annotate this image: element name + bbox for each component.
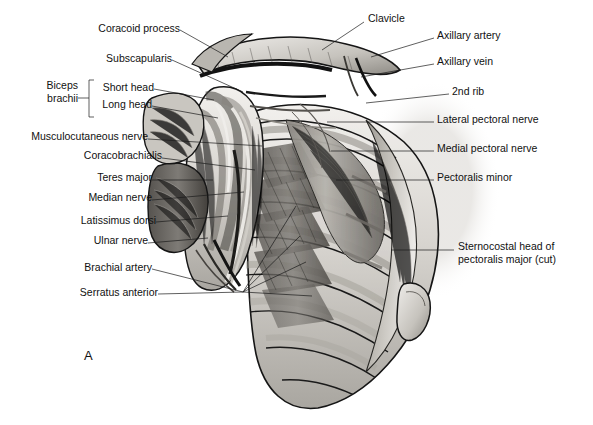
label-sternocostal-head: Sternocostal head of pectoralis major (c… <box>458 240 556 265</box>
leader-axillary-artery <box>371 38 434 57</box>
panel-letter-a: A <box>84 348 93 363</box>
label-brachial-artery: Brachial artery <box>0 261 152 274</box>
label-axillary-artery: Axillary artery <box>437 29 501 42</box>
label-ulnar-nerve: Ulnar nerve <box>0 234 148 247</box>
label-coracoid-process: Coracoid process <box>0 22 180 35</box>
label-short-head: Short head <box>0 81 154 94</box>
label-pectoralis-minor: Pectoralis minor <box>437 171 512 184</box>
label-coracobrachialis: Coracobrachialis <box>0 149 162 162</box>
label-long-head: Long head <box>0 98 152 111</box>
leader-serratus-anterior <box>158 292 243 294</box>
label-medial-pectoral-nerve: Medial pectoral nerve <box>437 142 537 155</box>
clavicle-group <box>192 34 400 76</box>
label-latissimus-dorsi: Latissimus dorsi <box>0 214 156 227</box>
label-subscapularis: Subscapularis <box>0 52 172 65</box>
anatomical-figure: Coracoid process Subscapularis Biceps br… <box>0 0 593 425</box>
label-median-nerve: Median nerve <box>0 191 152 204</box>
label-serratus-anterior: Serratus anterior <box>0 286 158 299</box>
label-2nd-rib: 2nd rib <box>452 85 484 98</box>
axillary-artery-vessel <box>246 92 326 97</box>
label-lateral-pectoral-nerve: Lateral pectoral nerve <box>437 113 539 126</box>
label-clavicle: Clavicle <box>368 12 405 25</box>
label-musculocutaneous-nerve: Musculocutaneous nerve <box>0 130 148 143</box>
label-teres-major: Teres major <box>0 171 152 184</box>
label-axillary-vein: Axillary vein <box>437 55 493 68</box>
costal-margin-tongue <box>397 283 430 341</box>
